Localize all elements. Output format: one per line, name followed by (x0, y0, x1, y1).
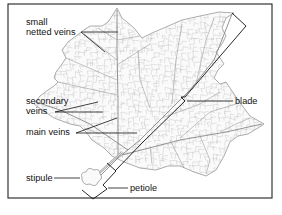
label-blade: blade (235, 96, 257, 106)
label-small: small (26, 17, 47, 27)
label-veins: veins (26, 106, 48, 116)
label-stipule: stipule (26, 173, 53, 183)
leaf-diagram: small netted veins secondary veins main … (0, 0, 282, 215)
leaf-diagram-svg: small netted veins secondary veins main … (0, 0, 282, 215)
label-netted-veins: netted veins (26, 27, 76, 37)
label-petiole: petiole (130, 183, 157, 193)
label-secondary: secondary (26, 96, 69, 106)
label-main-veins: main veins (26, 127, 70, 137)
